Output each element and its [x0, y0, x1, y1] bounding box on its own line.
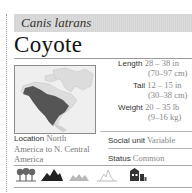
social-unit-value: Variable [147, 135, 175, 145]
map-icon [15, 66, 95, 133]
desert-icon [96, 168, 118, 182]
forest-icon [16, 168, 36, 182]
stat-weight-metric: (9–16 kg) [148, 112, 181, 122]
stats-divider [100, 131, 192, 132]
location-block: Location North America to N. Central Ame… [14, 133, 96, 164]
mountain-icon [41, 168, 63, 182]
stat-length-metric: (70–97 cm) [148, 68, 187, 78]
stat-value: 12 – 15 in [147, 80, 181, 90]
stat-label: Tail [133, 81, 145, 90]
social-unit-label: Social unit [108, 136, 145, 145]
status-label: Status [108, 154, 131, 163]
margin-dotted-rule [6, 14, 7, 193]
location-label: Location [14, 134, 44, 143]
social-unit-block: Social unit Variable [108, 135, 175, 145]
stat-value: 20 – 35 lb [145, 102, 179, 112]
stat-sub: (70–97 cm) [148, 68, 187, 78]
status-block: Status Common [108, 153, 164, 163]
status-value: Common [133, 153, 165, 163]
common-name-title: Coyote [14, 32, 82, 58]
habitat-bottom-divider [14, 187, 192, 188]
stat-tail-metric: (30–38 cm) [148, 90, 187, 100]
social-divider [108, 148, 192, 149]
scientific-name: Canis latrans [21, 15, 91, 31]
stat-label: Weight [118, 103, 143, 112]
stat-sub: (9–16 kg) [148, 112, 181, 122]
habitat-icons [14, 166, 192, 186]
range-map [14, 65, 96, 134]
stat-sub: (30–38 cm) [148, 90, 187, 100]
urban-icon [128, 168, 148, 182]
scientific-name-band: Canis latrans [14, 14, 192, 32]
grassland-icon [69, 168, 89, 182]
stat-value: 28 – 38 in [145, 58, 179, 68]
stat-label: Length [118, 59, 142, 68]
